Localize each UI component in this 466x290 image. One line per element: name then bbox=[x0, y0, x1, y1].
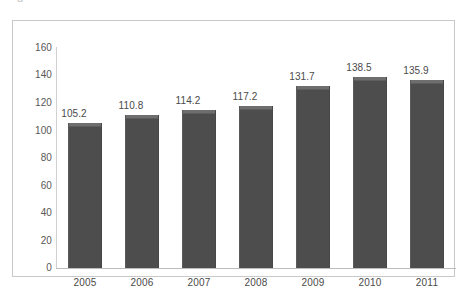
x-tick-label: 2010 bbox=[342, 277, 398, 288]
y-axis-ticks: 160 140 120 100 80 60 40 20 0 bbox=[13, 21, 52, 290]
bar-top-highlight bbox=[126, 115, 158, 119]
bar[interactable] bbox=[296, 86, 330, 268]
y-tick-label: 120 bbox=[14, 98, 52, 108]
caption-stub: g bbox=[17, 0, 31, 2]
bar-value-label: 135.9 bbox=[392, 66, 440, 76]
bar[interactable] bbox=[353, 77, 387, 268]
bar-top-highlight bbox=[183, 110, 215, 114]
bar-value-label: 131.7 bbox=[278, 72, 326, 82]
bar-slot: 131.7 bbox=[285, 47, 341, 268]
bar-slot: 117.2 bbox=[228, 47, 284, 268]
y-tick-label: 0 bbox=[14, 263, 52, 273]
bar[interactable] bbox=[239, 106, 273, 268]
y-tick-label: 40 bbox=[14, 208, 52, 218]
bar-slot: 110.8 bbox=[114, 47, 170, 268]
bar-top-highlight bbox=[354, 77, 386, 81]
bar[interactable] bbox=[410, 80, 444, 268]
y-tick-label: 60 bbox=[14, 181, 52, 191]
bar-top-highlight bbox=[411, 80, 443, 84]
bar[interactable] bbox=[182, 110, 216, 268]
x-tick-label: 2006 bbox=[114, 277, 170, 288]
bar-value-label: 110.8 bbox=[107, 101, 155, 111]
y-tick-label: 80 bbox=[14, 153, 52, 163]
x-tick-label: 2009 bbox=[285, 277, 341, 288]
bar-top-highlight bbox=[297, 86, 329, 90]
bar[interactable] bbox=[125, 115, 159, 268]
x-tick-label: 2005 bbox=[57, 277, 113, 288]
bar-value-label: 138.5 bbox=[335, 63, 383, 73]
y-tick-label: 160 bbox=[14, 43, 52, 53]
x-tick-label: 2011 bbox=[399, 277, 455, 288]
bar-slot: 105.2 bbox=[57, 47, 113, 268]
chart-frame: 160 140 120 100 80 60 40 20 0 105.2 110.… bbox=[12, 20, 455, 277]
bar-slot: 114.2 bbox=[171, 47, 227, 268]
bar-top-highlight bbox=[69, 123, 101, 127]
y-tick-label: 140 bbox=[14, 70, 52, 80]
bar[interactable] bbox=[68, 123, 102, 268]
bar-top-highlight bbox=[240, 106, 272, 110]
bar-slot: 138.5 bbox=[342, 47, 398, 268]
bar-value-label: 117.2 bbox=[221, 92, 269, 102]
bar-value-label: 114.2 bbox=[164, 96, 212, 106]
x-axis-baseline bbox=[56, 268, 456, 269]
x-tick-label: 2008 bbox=[228, 277, 284, 288]
bar-series: 105.2 110.8 114.2 117.2 131.7 bbox=[57, 47, 456, 268]
y-tick-label: 100 bbox=[14, 126, 52, 136]
bar-slot: 135.9 bbox=[399, 47, 455, 268]
x-tick-label: 2007 bbox=[171, 277, 227, 288]
x-axis-labels: 2005 2006 2007 2008 2009 2010 2011 bbox=[57, 277, 456, 290]
y-tick-label: 20 bbox=[14, 236, 52, 246]
bar-value-label: 105.2 bbox=[50, 109, 98, 119]
